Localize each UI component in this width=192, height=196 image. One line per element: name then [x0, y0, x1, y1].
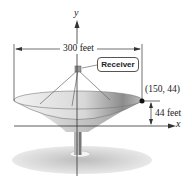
x-axis-label: x: [176, 119, 180, 129]
point-label: (150, 44): [145, 85, 180, 95]
diagram-graphics: [0, 0, 192, 196]
dish-bowl: [14, 91, 142, 120]
y-axis-label: y: [74, 8, 78, 18]
receiver-unit: [75, 66, 81, 72]
parabolic-dish-figure: y x 300 feet Receiver (150, 44) 44 feet: [0, 0, 192, 196]
depth-label: 44 feet: [155, 109, 181, 119]
width-label: 300 feet: [62, 44, 95, 54]
rim-point-marker: [140, 99, 145, 104]
support-pole: [74, 130, 82, 155]
receiver-callout-line: [82, 65, 97, 68]
receiver-callout: Receiver: [97, 57, 139, 72]
